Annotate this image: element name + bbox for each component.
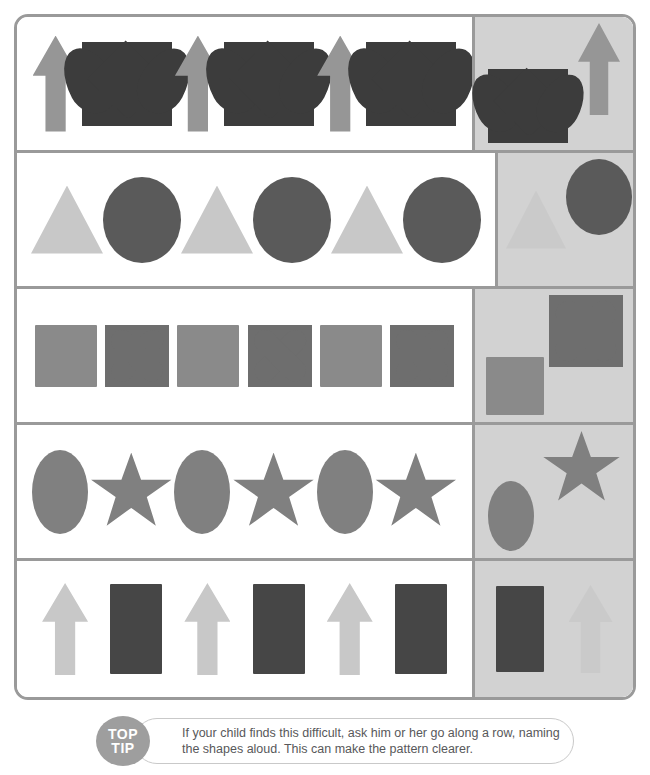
sequence-slot [224, 42, 314, 126]
star-icon [375, 453, 457, 531]
oval-icon [174, 450, 230, 534]
sequence-slot [253, 177, 331, 263]
sequence-slot [82, 42, 172, 126]
x-cross-icon [549, 295, 623, 367]
sequence-slot [110, 584, 162, 674]
triangle-icon [506, 191, 566, 249]
sequence-slot [103, 177, 181, 263]
sequence-slot [317, 450, 373, 534]
sequence-slot [90, 453, 172, 531]
answer-area-row-4[interactable] [472, 425, 633, 558]
pattern-row-3 [17, 289, 633, 425]
oval-icon [317, 450, 373, 534]
square-icon [320, 325, 382, 387]
answer-slot-filled[interactable] [566, 147, 632, 292]
answer-area-row-5[interactable] [472, 561, 633, 697]
sequence-area-row-2 [17, 153, 495, 286]
sequence-slot [390, 325, 454, 387]
arrow-up-icon [42, 583, 88, 675]
answer-slot-filled[interactable] [488, 14, 568, 157]
sequence-slot [375, 453, 457, 531]
heart-core [372, 41, 451, 120]
pattern-row-5 [17, 561, 633, 697]
x-cross-icon [248, 325, 312, 387]
rectangle-icon [395, 584, 447, 674]
sequence-slot [174, 450, 230, 534]
sequence-slot [105, 325, 169, 387]
star-icon [543, 431, 621, 505]
sequence-slot [32, 450, 88, 534]
top-tip-bar: TOP TIP If your child finds this difficu… [96, 716, 574, 766]
sequence-area-row-4 [17, 425, 472, 558]
pattern-row-1 [17, 17, 633, 153]
sequence-slot [331, 186, 403, 254]
rectangle-icon [110, 584, 162, 674]
pattern-row-4 [17, 425, 633, 561]
top-tip-badge: TOP TIP [96, 716, 150, 766]
arrow-up-icon [327, 583, 373, 675]
answer-slot-filled[interactable] [543, 419, 621, 564]
answer-area-row-1[interactable] [472, 17, 633, 150]
sequence-slot [327, 583, 373, 675]
answer-slot-filled[interactable] [486, 282, 544, 429]
circle-icon [566, 159, 632, 235]
circle-icon [103, 177, 181, 263]
arrow-up-icon [569, 585, 613, 673]
sequence-slot [233, 453, 315, 531]
sequence-slot [248, 325, 312, 387]
sequence-slot [177, 325, 239, 387]
sequence-slot [42, 583, 88, 675]
rectangle-icon [496, 586, 544, 672]
heart-core [230, 41, 309, 120]
x-cross-icon [105, 325, 169, 387]
square-icon [35, 325, 97, 387]
sequence-slot [403, 177, 481, 263]
pattern-row-2 [17, 153, 633, 289]
triangle-icon [331, 186, 403, 254]
answer-slot-empty[interactable] [569, 561, 613, 697]
sequence-slot [366, 42, 456, 126]
answer-slot-filled[interactable] [549, 283, 623, 428]
sequence-area-row-1 [17, 17, 472, 150]
rectangle-icon [253, 584, 305, 674]
star-icon [90, 453, 172, 531]
sequence-slot [184, 583, 230, 675]
arrow-up-icon [578, 23, 620, 115]
top-tip-badge-line2: TIP [111, 741, 134, 755]
heart-icon [366, 42, 456, 126]
answer-slot-filled[interactable] [488, 418, 534, 565]
answer-area-row-3[interactable] [472, 289, 633, 422]
sequence-slot [253, 584, 305, 674]
sequence-area-row-5 [17, 561, 472, 697]
heart-icon [224, 42, 314, 126]
top-tip-badge-line1: TOP [108, 727, 138, 741]
answer-slot-empty[interactable] [506, 153, 566, 286]
square-icon [177, 325, 239, 387]
circle-icon [253, 177, 331, 263]
triangle-icon [31, 186, 103, 254]
heart-core [493, 68, 563, 138]
triangle-icon [181, 186, 253, 254]
oval-icon [32, 450, 88, 534]
arrow-up-icon [184, 583, 230, 675]
sequence-slot [181, 186, 253, 254]
pattern-worksheet [14, 14, 636, 700]
answer-slot-filled[interactable] [578, 14, 620, 156]
x-cross-icon [390, 325, 454, 387]
heart-icon [82, 42, 172, 126]
top-tip-text: If your child finds this difficult, ask … [182, 725, 564, 757]
oval-icon [488, 481, 534, 551]
sequence-slot [395, 584, 447, 674]
circle-icon [403, 177, 481, 263]
sequence-slot [320, 325, 382, 387]
heart-icon [488, 69, 568, 143]
answer-slot-filled[interactable] [496, 561, 544, 697]
sequence-area-row-3 [17, 289, 472, 422]
sequence-slot [31, 186, 103, 254]
heart-core [87, 41, 166, 120]
sequence-slot [35, 325, 97, 387]
answer-area-row-2[interactable] [495, 153, 636, 286]
star-icon [233, 453, 315, 531]
square-icon [486, 357, 544, 415]
